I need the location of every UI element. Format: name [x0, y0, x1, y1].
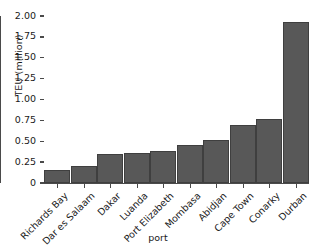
y-axis-tick-label: 0.50	[15, 135, 36, 146]
y-axis-line	[0, 16, 1, 183]
bar	[150, 151, 176, 183]
x-axis-tick-mark	[110, 184, 111, 189]
x-axis-tick-mark	[57, 184, 58, 189]
x-axis-tick-mark	[216, 184, 217, 189]
y-axis-tick-label: 0	[30, 177, 36, 188]
bar	[124, 153, 150, 183]
bar	[97, 154, 123, 183]
y-axis-tick-label: 1.75	[15, 30, 36, 41]
y-axis-tick-label: 2.00	[15, 10, 36, 21]
x-axis-tick-mark	[296, 184, 297, 189]
x-axis-tick-mark	[190, 184, 191, 189]
bar	[71, 166, 97, 183]
x-axis-tick-mark	[84, 184, 85, 189]
bar	[44, 170, 70, 183]
bar	[283, 22, 309, 183]
x-axis-title: port	[0, 232, 316, 243]
x-axis-tick-mark	[269, 184, 270, 189]
y-axis-tick-label: 1.25	[15, 72, 36, 83]
bar	[177, 145, 203, 183]
bar	[230, 125, 256, 183]
bars-layer	[44, 16, 309, 183]
y-axis-tick-label: 1.50	[15, 51, 36, 62]
y-axis-title: TEU (million)	[13, 11, 24, 121]
x-axis-tick-mark	[137, 184, 138, 189]
bar-chart: TEU (million) 00.250.500.751.001.251.501…	[0, 0, 316, 248]
bar	[203, 140, 229, 183]
x-axis-tick-mark	[163, 184, 164, 189]
y-axis-tick-label: 0.75	[15, 114, 36, 125]
x-axis-tick-mark	[243, 184, 244, 189]
bar	[256, 119, 282, 183]
y-axis-tick-label: 1.00	[15, 93, 36, 104]
y-axis-tick-label: 0.25	[15, 156, 36, 167]
